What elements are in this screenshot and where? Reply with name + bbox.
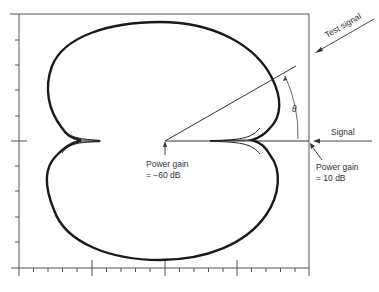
edge-gain-label-line2: = 10 dB (316, 173, 346, 183)
radius-line (165, 66, 296, 141)
signal-label: Signal (331, 127, 355, 137)
test-signal-label: Test signal (323, 11, 363, 40)
edge-gain-arrow (310, 143, 322, 160)
edge-gain-label-line1: Power gain (316, 162, 359, 172)
theta-label: θ (292, 104, 297, 114)
center-gain-label-line2: = −60 dB (146, 170, 181, 180)
center-gain-arrow (163, 141, 167, 155)
signal-arrow (313, 139, 372, 144)
center-gain-label-line1: Power gain (146, 159, 189, 169)
left-null-cusp (62, 128, 100, 153)
frame (10, 14, 309, 276)
polar-gain-diagram: θ Power gain = −60 dB Power gain = 10 dB… (0, 0, 379, 292)
